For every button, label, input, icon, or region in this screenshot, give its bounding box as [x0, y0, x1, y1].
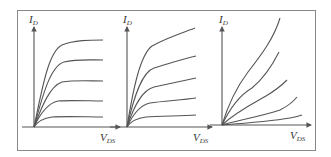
y-label-sub: D	[127, 19, 132, 27]
x-label-main: V	[290, 129, 297, 141]
y-label-sub: D	[223, 19, 228, 27]
panel-2-y-label: ID	[123, 14, 132, 27]
figure-svg	[0, 0, 331, 157]
y-label-sub: D	[33, 19, 38, 27]
panel-2-x-label: VDS	[193, 132, 208, 145]
x-label-main: V	[193, 131, 200, 143]
panel-3-y-label: ID	[219, 14, 228, 27]
panel-3-x-label: VDS	[290, 130, 305, 143]
panel-1-x-label: VDS	[100, 132, 115, 145]
figure: ID VDS ID VDS ID VDS	[0, 0, 331, 157]
x-label-sub: DS	[297, 135, 306, 143]
x-label-main: V	[100, 131, 107, 143]
figure-frame	[18, 11, 316, 151]
x-label-sub: DS	[200, 137, 209, 145]
x-label-sub: DS	[107, 137, 116, 145]
panel-1-y-label: ID	[29, 14, 38, 27]
